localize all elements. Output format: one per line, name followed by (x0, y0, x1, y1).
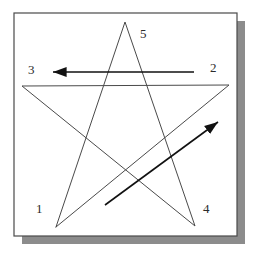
vertex-label-5: 5 (140, 27, 147, 40)
vertex-label-1: 1 (36, 202, 43, 215)
vertex-label-2: 2 (210, 61, 217, 74)
vertex-label-3: 3 (28, 63, 35, 76)
star-diagram-figure: 1 2 3 4 5 (0, 0, 254, 253)
vertex-label-4: 4 (203, 202, 210, 215)
